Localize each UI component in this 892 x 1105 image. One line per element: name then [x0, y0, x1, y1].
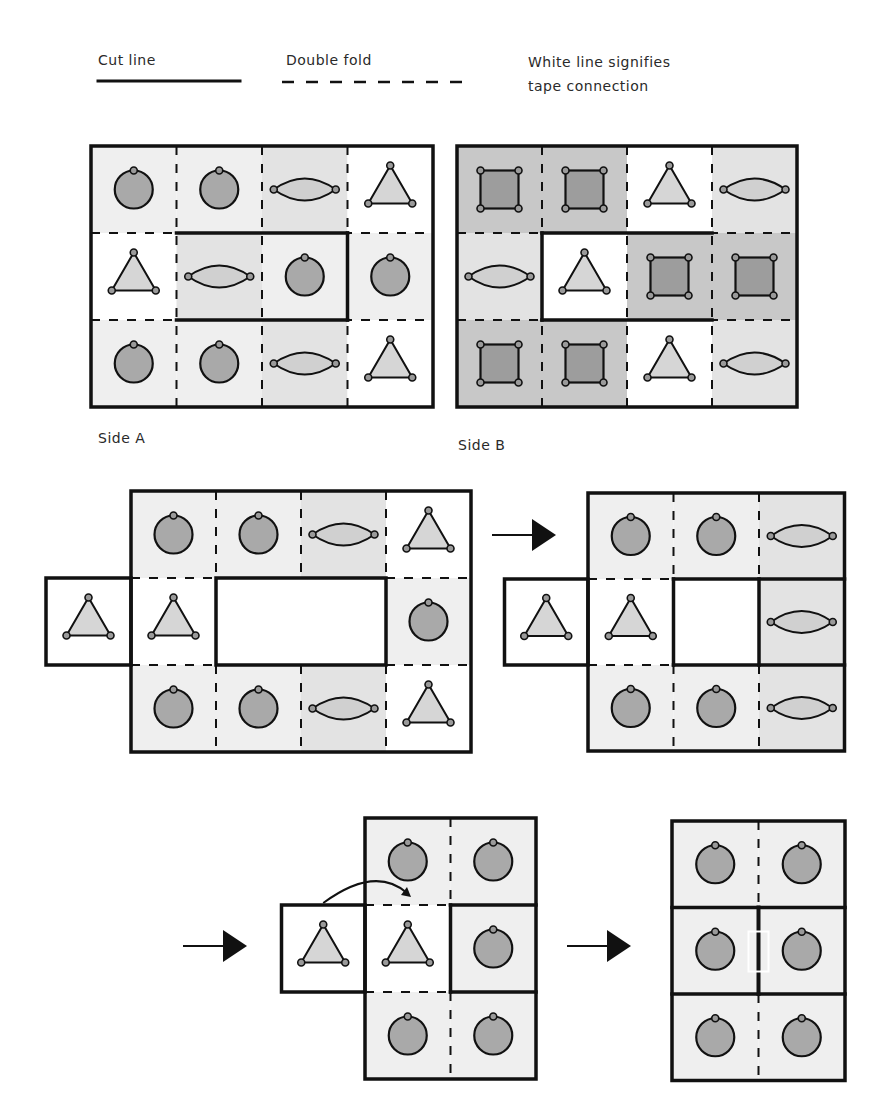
circle-icon [783, 932, 821, 970]
circle-icon [115, 171, 153, 209]
circle-icon [240, 690, 278, 728]
circle-icon [783, 1018, 821, 1056]
vertex-dot-icon [107, 632, 114, 639]
vertex-dot-icon [627, 595, 634, 602]
vertex-dot-icon [477, 341, 484, 348]
circle-icon [612, 689, 650, 727]
vertex-dot-icon [342, 959, 349, 966]
circle-icon [474, 930, 512, 968]
vertex-dot-icon [720, 360, 727, 367]
vertex-dot-icon [521, 633, 528, 640]
circle-icon [115, 345, 153, 383]
vertex-dot-icon [465, 273, 472, 280]
vertex-dot-icon [309, 705, 316, 712]
vertex-dot-icon [515, 167, 522, 174]
vertex-dot-icon [600, 167, 607, 174]
vertex-dot-icon [712, 842, 719, 849]
vertex-dot-icon [713, 514, 720, 521]
arrow-right-icon [223, 930, 247, 962]
vertex-dot-icon [649, 633, 656, 640]
vertex-dot-icon [600, 379, 607, 386]
vertex-dot-icon [130, 341, 137, 348]
vertex-dot-icon [627, 686, 634, 693]
vertex-dot-icon [605, 633, 612, 640]
vertex-dot-icon [152, 287, 159, 294]
vertex-dot-icon [409, 200, 416, 207]
circle-icon [389, 1017, 427, 1055]
square-icon [481, 171, 519, 209]
vertex-dot-icon [387, 162, 394, 169]
vertex-dot-icon [732, 292, 739, 299]
vertex-dot-icon [185, 273, 192, 280]
circle-icon [783, 845, 821, 883]
circle-icon [697, 689, 735, 727]
vertex-dot-icon [565, 633, 572, 640]
vertex-dot-icon [365, 200, 372, 207]
vertex-dot-icon [666, 336, 673, 343]
vertex-dot-icon [490, 926, 497, 933]
vertex-dot-icon [332, 360, 339, 367]
cell-background [674, 579, 760, 665]
vertex-dot-icon [170, 686, 177, 693]
circle-icon [389, 843, 427, 881]
vertex-dot-icon [320, 921, 327, 928]
vertex-dot-icon [603, 287, 610, 294]
vertex-dot-icon [644, 374, 651, 381]
vertex-dot-icon [600, 341, 607, 348]
circle-icon [371, 258, 409, 296]
vertex-dot-icon [404, 839, 411, 846]
circle-icon [696, 845, 734, 883]
vertex-dot-icon [425, 599, 432, 606]
square-icon [566, 345, 604, 383]
vertex-dot-icon [130, 249, 137, 256]
vertex-dot-icon [170, 512, 177, 519]
vertex-dot-icon [490, 839, 497, 846]
vertex-dot-icon [404, 1013, 411, 1020]
square-icon [481, 345, 519, 383]
vertex-dot-icon [403, 545, 410, 552]
vertex-dot-icon [829, 533, 836, 540]
vertex-dot-icon [770, 292, 777, 299]
vertex-dot-icon [371, 705, 378, 712]
vertex-dot-icon [270, 360, 277, 367]
cutout-hole [216, 578, 386, 665]
vertex-dot-icon [477, 167, 484, 174]
vertex-dot-icon [216, 341, 223, 348]
circle-icon [696, 932, 734, 970]
vertex-dot-icon [685, 254, 692, 261]
vertex-dot-icon [515, 205, 522, 212]
vertex-dot-icon [170, 594, 177, 601]
vertex-dot-icon [562, 379, 569, 386]
vertex-dot-icon [216, 167, 223, 174]
vertex-dot-icon [666, 162, 673, 169]
vertex-dot-icon [798, 842, 805, 849]
arrow-right-icon [607, 930, 631, 962]
vertex-dot-icon [477, 379, 484, 386]
circle-icon [474, 1017, 512, 1055]
folding-diagram [0, 0, 892, 1105]
circle-icon [286, 258, 324, 296]
vertex-dot-icon [301, 254, 308, 261]
vertex-dot-icon [426, 959, 433, 966]
vertex-dot-icon [782, 186, 789, 193]
vertex-dot-icon [490, 1013, 497, 1020]
vertex-dot-icon [515, 379, 522, 386]
vertex-dot-icon [685, 292, 692, 299]
circle-icon [200, 171, 238, 209]
vertex-dot-icon [403, 719, 410, 726]
vertex-dot-icon [298, 959, 305, 966]
vertex-dot-icon [247, 273, 254, 280]
vertex-dot-icon [767, 619, 774, 626]
vertex-dot-icon [425, 681, 432, 688]
vertex-dot-icon [688, 374, 695, 381]
vertex-dot-icon [332, 186, 339, 193]
vertex-dot-icon [425, 507, 432, 514]
vertex-dot-icon [798, 1015, 805, 1022]
vertex-dot-icon [63, 632, 70, 639]
vertex-dot-icon [562, 167, 569, 174]
vertex-dot-icon [309, 531, 316, 538]
vertex-dot-icon [688, 200, 695, 207]
circle-icon [474, 843, 512, 881]
vertex-dot-icon [720, 186, 727, 193]
vertex-dot-icon [562, 341, 569, 348]
